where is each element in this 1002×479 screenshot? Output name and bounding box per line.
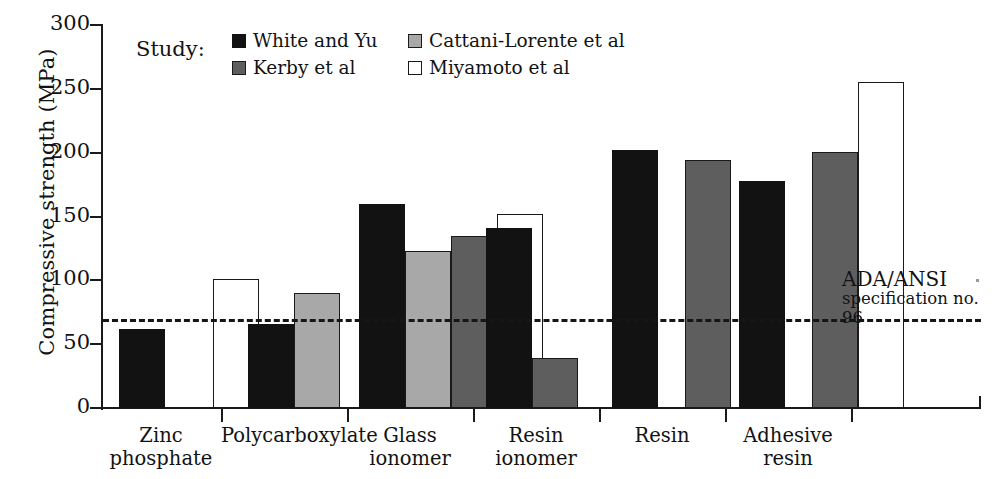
legend-item-cattani-lorente: Cattani-Lorente et al xyxy=(408,30,625,51)
y-tick-label: 250 xyxy=(44,75,90,99)
bar-resin-ionomer-kerby xyxy=(532,358,578,408)
y-tick-label: 0 xyxy=(44,394,90,418)
legend-item-white-and-yu: White and Yu xyxy=(232,30,377,51)
bar-adhesive-resin-miyamoto xyxy=(858,82,904,408)
plot-area xyxy=(101,25,981,408)
legend-swatch-light-gray-icon xyxy=(408,34,422,48)
legend-title: Study: xyxy=(136,37,205,61)
x-group-tick xyxy=(599,409,601,422)
legend-item-kerby: Kerby et al xyxy=(232,57,356,78)
x-group-tick xyxy=(221,409,223,422)
legend-label: Kerby et al xyxy=(253,57,356,78)
group-label-line1: Zinc xyxy=(101,424,221,447)
x-group-tick xyxy=(347,409,349,422)
group-label-line1: Resin xyxy=(599,424,725,447)
y-tick-label: 100 xyxy=(44,266,90,290)
x-group-label-resin-ionomer: Resin ionomer xyxy=(473,424,599,470)
x-group-tick xyxy=(473,409,475,422)
bar-polycarboxylate-cattani-lorente xyxy=(294,293,340,408)
legend-label: Miyamoto et al xyxy=(429,57,570,78)
y-tick-label: 50 xyxy=(44,330,90,354)
y-tick-mark-250 xyxy=(90,88,101,90)
x-group-label-glass-ionomer: Glass ionomer xyxy=(347,424,473,470)
group-label-line1: Resin xyxy=(473,424,599,447)
group-label-line1: Adhesive xyxy=(725,424,851,447)
scan-speck xyxy=(976,279,979,282)
x-group-label-polycarboxylate: Polycarboxylate xyxy=(221,424,347,447)
y-tick-mark-50 xyxy=(90,343,101,345)
legend-label: Cattani-Lorente et al xyxy=(429,30,625,51)
bar-glass-ionomer-white-and-yu xyxy=(359,204,405,408)
bar-resin-kerby xyxy=(685,160,731,408)
group-label-line2: ionomer xyxy=(473,447,599,470)
bar-zinc-phosphate-white-and-yu xyxy=(119,329,165,408)
group-label-line1: Glass xyxy=(347,424,473,447)
bar-resin-ionomer-white-and-yu xyxy=(486,228,532,408)
x-group-label-resin: Resin xyxy=(599,424,725,447)
legend-label: White and Yu xyxy=(253,30,377,51)
ada-ansi-annotation: ADA/ANSI specification no. 96 xyxy=(842,268,1002,327)
bar-adhesive-resin-white-and-yu xyxy=(739,181,785,408)
y-tick-mark-100 xyxy=(90,279,101,281)
y-tick-label: 300 xyxy=(44,11,90,35)
bar-glass-ionomer-cattani-lorente xyxy=(405,251,451,408)
legend-swatch-black-icon xyxy=(232,34,246,48)
legend: Study: White and Yu Kerby et al Cattani-… xyxy=(136,26,606,82)
x-group-label-adhesive-resin: Adhesive resin xyxy=(725,424,851,470)
group-label-line1: Polycarboxylate xyxy=(221,424,347,447)
group-label-line2: resin xyxy=(725,447,851,470)
bar-polycarboxylate-white-and-yu xyxy=(248,324,294,408)
bar-resin-white-and-yu xyxy=(612,150,658,408)
x-group-tick xyxy=(725,409,727,422)
ada-ansi-annotation-line2: specification no. 96 xyxy=(842,290,1002,327)
y-tick-label: 150 xyxy=(44,203,90,227)
y-tick-mark-300 xyxy=(90,24,101,26)
y-tick-label: 200 xyxy=(44,139,90,163)
y-tick-mark-0 xyxy=(90,407,101,409)
legend-swatch-dark-gray-icon xyxy=(232,61,246,75)
legend-item-miyamoto: Miyamoto et al xyxy=(408,57,570,78)
x-group-tick xyxy=(851,409,853,422)
y-tick-mark-200 xyxy=(90,152,101,154)
legend-swatch-white-icon xyxy=(408,61,422,75)
x-group-label-zinc-phosphate: Zinc phosphate xyxy=(101,424,221,470)
group-label-line2: phosphate xyxy=(101,447,221,470)
compressive-strength-bar-chart: Compressive strength (MPa) 0 50 100 150 … xyxy=(0,0,1002,479)
y-tick-mark-150 xyxy=(90,216,101,218)
group-label-line2: ionomer xyxy=(347,447,473,470)
